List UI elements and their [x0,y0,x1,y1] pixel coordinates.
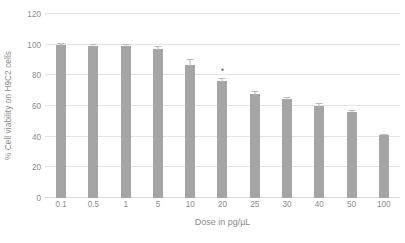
bar-slot [110,14,142,198]
error-bar-cap [283,97,290,98]
bars-container: * [45,14,400,198]
error-bar [125,45,126,47]
bar-slot [239,14,271,198]
x-axis-tick-labels: 0.10.515102025304050100 [45,200,400,214]
error-bar-cap [251,91,258,92]
bar[interactable] [153,49,163,198]
bar-slot [303,14,335,198]
bar[interactable] [379,135,389,198]
x-tick-label: 10 [174,200,206,214]
y-axis-title: % Cell viability on H9C2 cells [0,0,18,210]
error-bar-cap [348,110,355,111]
error-bar [383,135,384,137]
error-bar-cap [316,103,323,104]
y-axis-title-text: % Cell viability on H9C2 cells [5,50,14,159]
error-bar [286,98,287,100]
bar[interactable] [121,46,131,198]
x-tick-label: 0.5 [77,200,109,214]
y-tick-label: 40 [32,132,41,141]
y-tick-label: 20 [32,163,41,172]
x-tick-label: 25 [239,200,271,214]
bar-slot [77,14,109,198]
x-tick-label: 5 [142,200,174,214]
bar-chart: % Cell viability on H9C2 cells 020406080… [0,0,405,243]
error-bar [351,111,352,113]
error-bar-cap [154,46,161,47]
x-tick-label: 50 [335,200,367,214]
error-bar [93,45,94,47]
error-bar [61,44,62,46]
error-bar-cap [122,44,129,45]
y-tick-label: 100 [27,40,41,49]
bar[interactable] [314,106,324,198]
error-bar-cap [90,44,97,45]
y-tick-label: 120 [27,10,41,19]
plot-area: * [45,14,400,198]
bar[interactable] [56,45,66,198]
bar[interactable] [347,112,357,198]
y-axis-tick-labels: 020406080100120 [18,0,44,210]
error-bar [190,60,191,65]
bar-slot [335,14,367,198]
error-bar [157,47,158,50]
significance-marker: * [221,68,225,74]
y-tick-label: 60 [32,102,41,111]
error-bar-cap [219,78,226,79]
x-axis-title: Dose in pg/µL [45,217,400,227]
x-tick-label: 40 [303,200,335,214]
bar-slot [142,14,174,198]
error-bar-cap [187,59,194,60]
y-tick-label: 0 [36,194,41,203]
error-bar-cap [380,134,387,135]
x-tick-label: 1 [110,200,142,214]
bar[interactable] [88,46,98,198]
x-tick-label: 30 [271,200,303,214]
bar[interactable] [250,94,260,198]
y-tick-label: 80 [32,71,41,80]
bar-slot [368,14,400,198]
x-tick-label: 0.1 [45,200,77,214]
bar-slot [174,14,206,198]
x-tick-label: 100 [368,200,400,214]
error-bar [222,79,223,83]
bar[interactable]: * [217,81,227,198]
bar[interactable] [282,99,292,198]
error-bar-cap [58,43,65,44]
error-bar [319,104,320,107]
error-bar [254,92,255,95]
bar-slot [45,14,77,198]
bar-slot: * [206,14,238,198]
x-tick-label: 20 [206,200,238,214]
bar[interactable] [185,65,195,198]
bar-slot [271,14,303,198]
